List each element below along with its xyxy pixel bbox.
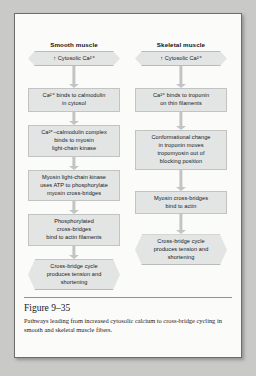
arrow-shaft [72,112,75,121]
arrow-shaft [179,112,182,126]
column-title-smooth-muscle: Smooth muscle [22,41,126,48]
column-smooth-muscle: Smooth muscle ↑ Cytosolic Ca²⁺ Ca²⁺ bind… [22,14,126,290]
arrow-shaft [179,170,182,187]
arrow-shaft [72,157,75,166]
figure-caption-block: Figure 9–35 Pathways leading from increa… [15,297,241,334]
node-skeletal-2: Conformational change in troponin moves … [135,130,227,170]
node-label: ↑ Cytosolic Ca²⁺ [160,55,202,63]
node-smooth-3: Myosin light-chain kinase uses ATP to ph… [28,170,120,202]
caption-divider [24,297,232,298]
arrow-shaft [72,246,75,255]
arrow-shaft [72,201,75,210]
node-label: Myosin light-chain kinase uses ATP to ph… [40,174,108,198]
connector-arrow [69,112,80,125]
connector-arrow [176,214,187,234]
node-skeletal-3: Myosin cross-bridges bind to actin [135,191,227,215]
arrow-head-icon [176,230,186,234]
node-smooth-1: Ca²⁺ binds to calmodulin in cytosol [28,88,120,112]
connector-arrow [176,170,187,191]
column-title-skeletal-muscle: Skeletal muscle [129,41,233,48]
node-label: Cross-bridge cycle produces tension and … [154,238,209,262]
node-smooth-4: Phosphorylated cross-bridges bind to act… [28,214,120,246]
node-label: Ca²⁺ binds to troponin on thin filaments [153,92,209,108]
connector-arrow [69,157,80,170]
connector-arrow [176,66,187,88]
node-skeletal-4: Cross-bridge cycle produces tension and … [135,234,227,265]
node-label: ↑ Cytosolic Ca²⁺ [53,55,95,63]
node-label: Cross-bridge cycle produces tension and … [47,263,102,287]
arrow-head-icon [69,255,79,259]
node-label: Ca²⁺–calmodulin complex binds to myosin … [41,129,107,153]
figure-caption-text: Pathways leading from increased cytosoli… [24,316,232,335]
node-skeletal-0: ↑ Cytosolic Ca²⁺ [135,51,227,66]
arrow-shaft [179,66,182,84]
node-label: Conformational change in troponin moves … [151,134,210,166]
node-label: Myosin cross-bridges bind to actin [154,195,208,211]
diagram-area: Smooth muscle ↑ Cytosolic Ca²⁺ Ca²⁺ bind… [15,14,241,297]
node-smooth-2: Ca²⁺–calmodulin complex binds to myosin … [28,125,120,157]
connector-arrow [69,246,80,259]
connector-arrow [176,112,187,130]
connector-arrow [69,66,80,88]
node-label: Ca²⁺ binds to calmodulin in cytosol [43,92,106,108]
node-smooth-0: ↑ Cytosolic Ca²⁺ [28,51,120,66]
figure-page: Smooth muscle ↑ Cytosolic Ca²⁺ Ca²⁺ bind… [14,13,242,358]
figure-number: Figure 9–35 [24,303,232,313]
node-label: Phosphorylated cross-bridges bind to act… [46,218,101,242]
connector-arrow [69,201,80,214]
arrow-shaft [72,66,75,84]
arrow-shaft [179,214,182,230]
column-skeletal-muscle: Skeletal muscle ↑ Cytosolic Ca²⁺ Ca²⁺ bi… [129,14,233,265]
node-skeletal-1: Ca²⁺ binds to troponin on thin filaments [135,88,227,112]
node-smooth-5: Cross-bridge cycle produces tension and … [28,259,120,290]
